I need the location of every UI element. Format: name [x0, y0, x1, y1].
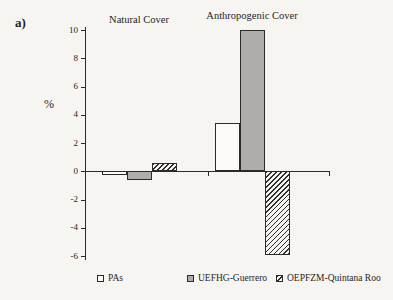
x-tick-mark	[208, 172, 209, 176]
x-tick-mark	[329, 172, 330, 176]
y-tick-label: 8	[58, 53, 78, 63]
bar-pas	[102, 171, 127, 175]
bar-pas	[215, 123, 240, 171]
category-label: Anthropogenic Cover	[206, 10, 297, 21]
legend-swatch-gray	[187, 275, 194, 282]
y-tick-label: 0	[58, 166, 78, 176]
bar-uefhg-guerrero	[127, 171, 152, 179]
y-tick-label: 10	[58, 25, 78, 35]
y-tick-mark	[81, 171, 85, 172]
y-tick-mark	[81, 115, 85, 116]
legend-label: PAs	[108, 273, 123, 283]
y-tick-mark	[81, 58, 85, 59]
category-label: Natural Cover	[109, 14, 169, 25]
legend-item: UEFHG-Guerrero	[187, 273, 267, 283]
y-tick-label: 4	[58, 109, 78, 119]
y-axis-line	[85, 27, 86, 260]
legend-item: PAs	[97, 273, 123, 283]
y-axis-title: %	[44, 97, 54, 112]
y-tick-label: -6	[58, 251, 78, 261]
y-tick-mark	[81, 143, 85, 144]
bar-oepfzm-quintana-roo	[152, 163, 177, 171]
y-tick-mark	[81, 228, 85, 229]
y-tick-label: -4	[58, 222, 78, 232]
y-tick-label: -2	[58, 194, 78, 204]
y-tick-mark	[81, 87, 85, 88]
bar-uefhg-guerrero	[240, 30, 265, 171]
legend-item: OEPFZM-Quintana Roo	[276, 273, 381, 283]
y-tick-mark	[81, 200, 85, 201]
y-tick-label: 2	[58, 138, 78, 148]
bar-oepfzm-quintana-roo	[265, 171, 290, 254]
y-tick-mark	[81, 256, 85, 257]
legend-swatch-white	[97, 275, 104, 282]
panel-label: a)	[15, 15, 26, 31]
y-tick-mark	[81, 30, 85, 31]
legend-label: OEPFZM-Quintana Roo	[287, 273, 381, 283]
y-tick-label: 6	[58, 81, 78, 91]
figure-panel-a: a) % 1086420-2-4-6 Natural CoverAnthropo…	[0, 0, 393, 300]
legend-label: UEFHG-Guerrero	[198, 273, 267, 283]
legend-swatch-hatch	[276, 275, 283, 282]
